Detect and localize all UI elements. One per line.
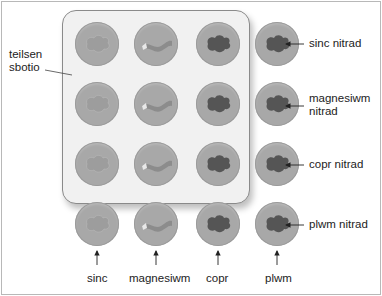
tile-label-line-2: sbotio — [9, 61, 42, 74]
row-label-line-2: nitrad — [309, 105, 370, 118]
tile-label-line-1: teilsen — [9, 48, 42, 61]
row-label-plwm-nitrad: plwm nitrad — [309, 218, 368, 231]
row-label-sinc-nitrad: sinc nitrad — [309, 37, 361, 50]
tile-label: teilsen sbotio — [9, 48, 42, 74]
col-label-magnesiwm: magnesiwm — [129, 272, 190, 285]
col-label-copr: copr — [206, 272, 228, 285]
col-label-sinc: sinc — [87, 272, 107, 285]
tile-leader-line — [45, 70, 72, 75]
row-label-copr-nitrad: copr nitrad — [309, 158, 363, 171]
row-label-magnesiwm-nitrad: magnesiwm nitrad — [309, 92, 370, 118]
row-label-line-1: magnesiwm — [309, 92, 370, 105]
col-label-plwm: plwm — [265, 272, 292, 285]
